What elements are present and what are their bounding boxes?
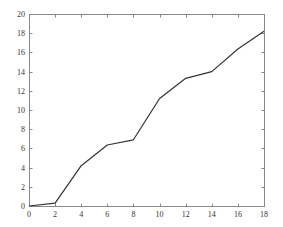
data-line [29, 31, 264, 206]
y-tick-label: 10 [17, 106, 25, 115]
y-tick-label: 6 [21, 144, 25, 153]
y-tick-label: 16 [17, 48, 25, 57]
x-tick-label: 0 [27, 210, 31, 219]
y-tick-label: 12 [17, 87, 25, 96]
y-tick-label: 4 [21, 164, 25, 173]
x-tick-label: 2 [53, 210, 57, 219]
x-tick-label: 18 [260, 210, 268, 219]
y-axis-tick-labels: 02468101214161820 [17, 10, 25, 211]
x-tick-label: 4 [79, 210, 83, 219]
plot-frame [30, 15, 265, 207]
x-tick-label: 16 [234, 210, 242, 219]
y-tick-label: 8 [21, 125, 25, 134]
axis-ticks [30, 15, 265, 207]
y-tick-label: 20 [17, 10, 25, 19]
y-tick-label: 0 [21, 202, 25, 211]
x-tick-label: 10 [156, 210, 164, 219]
x-tick-label: 14 [208, 210, 216, 219]
x-tick-label: 12 [182, 210, 190, 219]
y-tick-label: 18 [17, 29, 25, 38]
line-chart: 024681012141618 02468101214161820 [0, 0, 283, 227]
x-tick-label: 8 [131, 210, 135, 219]
y-tick-label: 2 [21, 183, 25, 192]
x-tick-label: 6 [105, 210, 109, 219]
x-axis-tick-labels: 024681012141618 [27, 210, 268, 219]
y-tick-label: 14 [17, 68, 25, 77]
